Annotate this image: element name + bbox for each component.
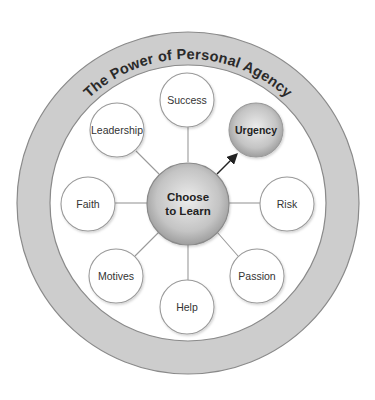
node-passion: Passion [230, 249, 284, 303]
node-leadership: Leadership [90, 103, 144, 157]
node-label: Urgency [235, 124, 277, 136]
node-label: Success [167, 94, 207, 106]
center-node: Choose to Learn [147, 163, 229, 245]
node-success: Success [160, 73, 214, 127]
node-label: Motives [98, 270, 134, 282]
personal-agency-diagram: The Power of Personal Agency Success Urg… [0, 0, 375, 400]
node-faith: Faith [61, 177, 115, 231]
node-label: Help [176, 301, 198, 313]
node-urgency: Urgency [229, 103, 283, 157]
center-label-line1: Choose [167, 191, 209, 203]
node-label: Passion [238, 270, 276, 282]
center-label-line2: to Learn [165, 205, 210, 217]
node-label: Faith [76, 198, 100, 210]
node-help: Help [160, 280, 214, 334]
node-label: Leadership [91, 124, 143, 136]
node-label: Risk [277, 198, 298, 210]
node-motives: Motives [89, 249, 143, 303]
node-risk: Risk [260, 177, 314, 231]
